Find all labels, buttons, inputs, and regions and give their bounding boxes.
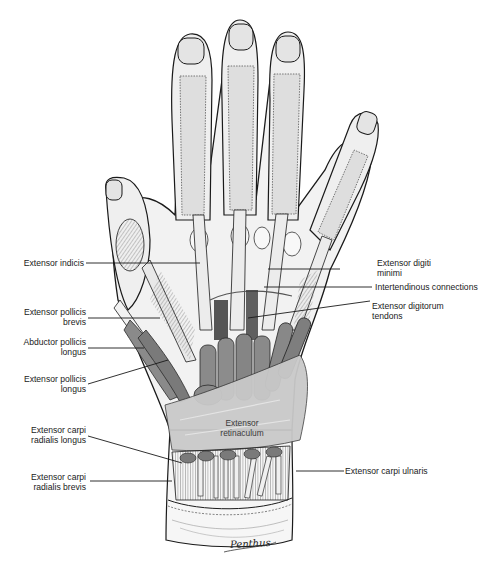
label-line: longus bbox=[23, 347, 86, 357]
label-line: minimi bbox=[377, 268, 431, 278]
label-line: Extensor carpi ulnaris bbox=[345, 466, 428, 476]
label-line: retinaculum bbox=[212, 428, 272, 438]
label-line: brevis bbox=[24, 317, 86, 327]
label-line: Abductor pollicis bbox=[23, 337, 86, 347]
label-extensor-pollicis-brevis: Extensor pollicis brevis bbox=[24, 307, 86, 327]
label-line: Extensor indicis bbox=[24, 258, 84, 268]
artist-signature: Penthus bbox=[230, 537, 271, 550]
label-line: Extensor carpi bbox=[31, 472, 86, 482]
label-extensor-retinaculum: Extensor retinaculum bbox=[212, 418, 272, 438]
label-extensor-pollicis-longus: Extensor pollicis longus bbox=[24, 374, 86, 394]
label-line: longus bbox=[24, 384, 86, 394]
wrist-tendons bbox=[172, 446, 290, 500]
label-line: Extensor bbox=[212, 418, 272, 428]
label-line: Extensor pollicis bbox=[24, 307, 86, 317]
label-line: tendons bbox=[372, 311, 444, 321]
label-abductor-pollicis-longus: Abductor pollicis longus bbox=[23, 337, 86, 357]
label-line: Extensor digitorum bbox=[372, 301, 444, 311]
label-extensor-carpi-ulnaris: Extensor carpi ulnaris bbox=[345, 466, 428, 476]
label-extensor-digiti-minimi: Extensor digiti minimi bbox=[377, 258, 431, 278]
label-line: Extensor carpi bbox=[31, 425, 86, 435]
label-intertendinous-connections: Intertendinous connections bbox=[375, 282, 478, 292]
label-line: radialis longus bbox=[31, 435, 86, 445]
label-extensor-indicis: Extensor indicis bbox=[24, 258, 84, 268]
label-line: Extensor pollicis bbox=[24, 374, 86, 384]
label-extensor-carpi-radialis-brevis: Extensor carpi radialis brevis bbox=[31, 472, 86, 492]
label-line: radialis brevis bbox=[31, 482, 86, 492]
label-extensor-carpi-radialis-longus: Extensor carpi radialis longus bbox=[31, 425, 86, 445]
label-line: Intertendinous connections bbox=[375, 282, 478, 292]
label-extensor-digitorum-tendons: Extensor digitorum tendons bbox=[372, 301, 444, 321]
label-line: Extensor digiti bbox=[377, 258, 431, 268]
